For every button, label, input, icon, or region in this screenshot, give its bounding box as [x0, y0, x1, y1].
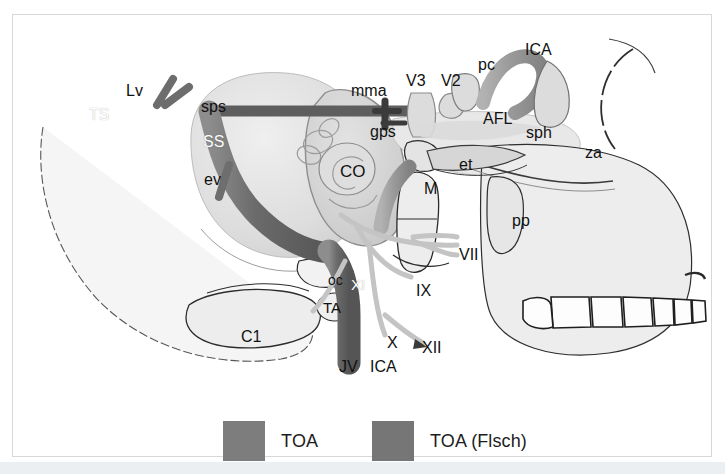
- label-hypoglossal-nerve: XII: [422, 340, 442, 356]
- diagram-canvas: LvTSspsSSevCOmmagpsV3V2pcICAAFLsphzaetMp…: [13, 15, 713, 458]
- label-pterygoid-plate: pp: [512, 213, 530, 229]
- label-occipital-condyle: oc: [328, 273, 343, 287]
- label-jugular-vein: JV: [339, 359, 358, 375]
- legend-item: TOA (Flsch): [372, 421, 527, 461]
- label-transverse-sinus: TS: [89, 107, 109, 123]
- label-cochlea: CO: [340, 163, 366, 180]
- label-glossopharyngeal-nerve: IX: [416, 283, 431, 299]
- legend-swatch: [223, 421, 265, 461]
- legend-swatch: [372, 421, 414, 461]
- label-sigmoid-sinus: SS: [203, 134, 224, 150]
- legend-item: TOA: [223, 421, 318, 461]
- label-atlas-vertebra: C1: [241, 329, 261, 345]
- label-vein-of-labbe: Lv: [126, 83, 143, 99]
- legend-label: TOA (Flsch): [430, 431, 527, 452]
- label-greater-petrosal-nerve: gps: [370, 124, 396, 140]
- bottom-strip: [0, 462, 725, 474]
- label-transverse-process-atlas: TA: [323, 300, 341, 315]
- label-internal-carotid-artery-upper: ICA: [525, 42, 552, 58]
- label-facial-nerve: VII: [459, 247, 479, 263]
- label-anterior-foramen-lacerum: AFL: [483, 111, 512, 127]
- label-emissary-vein: ev: [204, 172, 221, 188]
- label-sphenoid: sph: [526, 125, 552, 141]
- legend: TOATOA (Flsch): [25, 413, 725, 469]
- label-eustachian-tube: et: [459, 157, 472, 173]
- legend-label: TOA: [281, 431, 318, 452]
- label-posterior-clinoid: pc: [478, 57, 495, 73]
- label-accessory-nerve: XI: [351, 277, 365, 292]
- label-vagus-nerve: X: [387, 335, 398, 351]
- anatomy-figure: LvTSspsSSevCOmmagpsV3V2pcICAAFLsphzaetMp…: [0, 0, 725, 474]
- label-superior-petrosal-sinus: sps: [201, 99, 226, 115]
- label-mandibular-nerve: V3: [406, 73, 426, 89]
- figure-frame: LvTSspsSSevCOmmagpsV3V2pcICAAFLsphzaetMp…: [12, 14, 712, 457]
- label-maxillary-nerve: V2: [441, 73, 461, 89]
- label-mandible: M: [424, 181, 437, 197]
- label-middle-meningeal-artery: mma: [351, 83, 387, 99]
- label-zygomatic-arch: za: [585, 145, 602, 161]
- label-internal-carotid-artery-lower: ICA: [370, 359, 397, 375]
